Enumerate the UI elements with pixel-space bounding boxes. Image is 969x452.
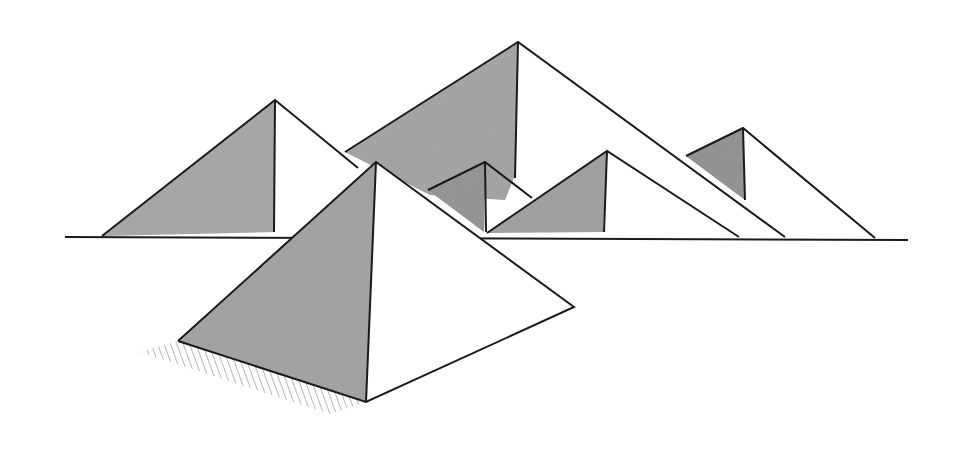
- drawing-svg: [0, 0, 969, 452]
- pyramid-drawing: [0, 0, 969, 452]
- horizon-line: [65, 237, 908, 240]
